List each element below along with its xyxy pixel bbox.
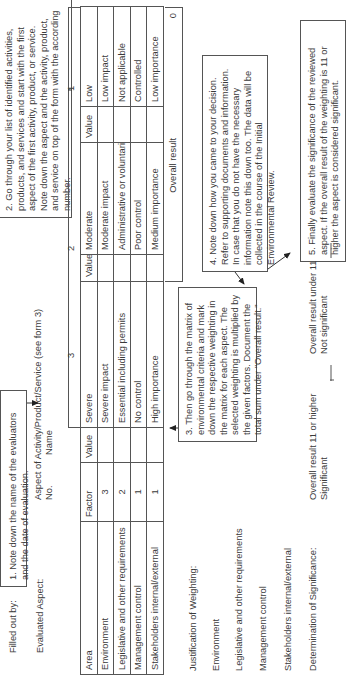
weighting-band xyxy=(68,7,80,428)
filled-out-by-label: Filled out by: xyxy=(8,600,18,653)
value-3-input[interactable] xyxy=(97,428,114,463)
col-value-2: Value xyxy=(81,255,98,282)
callout-step-1: 1. Note down the name of the evaluators … xyxy=(0,390,27,587)
col-factor: Factor xyxy=(81,463,98,522)
col-moderate: Moderate xyxy=(81,143,98,255)
callout-step-5-text: 5. Finally evaluate the significance of … xyxy=(307,27,342,255)
value-3-input[interactable] xyxy=(147,428,164,463)
callout-step-2: 2. Go through your list of identified ac… xyxy=(0,0,72,218)
band-label-1: 1 xyxy=(66,86,76,91)
callout-step-3: 3. Then go through the matrix of environ… xyxy=(178,287,257,442)
callout-step-4: 4. Note down how you came to your decisi… xyxy=(202,55,268,272)
low-cell: Controlled xyxy=(130,7,147,107)
justification-management: Management control xyxy=(258,586,268,671)
area-cell: Stakeholders internal/external xyxy=(147,522,164,675)
col-severe: Severe xyxy=(81,282,98,428)
callout-step-1-text: 1. Note down the name of the evaluators … xyxy=(8,397,31,580)
weighting-matrix: Area Factor Value Severe Value Moderate … xyxy=(80,6,164,675)
matrix-row-stakeholders: Stakeholders internal/external 1 High im… xyxy=(147,7,164,675)
value-2-input[interactable] xyxy=(97,255,114,282)
factor-cell: 2 xyxy=(114,463,131,522)
callout-step-4-text: 4. Note down how you came to your decisi… xyxy=(208,62,277,265)
value-3-input[interactable] xyxy=(114,428,131,463)
value-2-input[interactable] xyxy=(114,255,131,282)
col-low: Low xyxy=(81,7,98,107)
significance-label: Determination of Significance: xyxy=(308,547,318,671)
aspect-description: Aspect of Activity/Product/Service (see … xyxy=(33,309,43,500)
area-cell: Legislative and other requirements xyxy=(114,522,131,675)
factor-cell: 1 xyxy=(130,463,147,522)
callout-step-2-text: 2. Go through your list of identified ac… xyxy=(4,6,73,211)
low-cell: Low importance xyxy=(147,7,164,107)
overall-result-row: Overall result 0 xyxy=(165,7,183,282)
severe-cell: High importance xyxy=(147,282,164,428)
not-significant-label: Not significant xyxy=(319,296,329,354)
value-1-input[interactable] xyxy=(130,107,147,143)
evaluated-aspect-label: Evaluated Aspect: xyxy=(35,579,45,653)
value-1-input[interactable] xyxy=(97,107,114,143)
value-1-input[interactable] xyxy=(147,107,164,143)
severe-cell: Essential including permits xyxy=(114,282,131,428)
matrix-row-environment: Environment 3 Severe impact Moderate imp… xyxy=(97,7,114,675)
col-area: Area xyxy=(81,522,98,675)
col-value-1: Value xyxy=(81,107,98,143)
not-significant-criterion: Overall result under 11 xyxy=(308,261,318,354)
band-label-3: 3 xyxy=(66,353,76,358)
significant-criterion: Overall result 11 or higher xyxy=(308,394,318,500)
overall-result-value: 0 xyxy=(168,13,178,18)
col-value-3: Value xyxy=(81,428,98,463)
justification-title: Justification of Weighting: xyxy=(188,566,198,671)
aspect-name-label: Name xyxy=(44,430,54,455)
matrix-header-row: Area Factor Value Severe Value Moderate … xyxy=(81,7,98,675)
value-2-input[interactable] xyxy=(130,255,147,282)
value-3-input[interactable] xyxy=(130,428,147,463)
evaluation-form-page: Filled out by: Date: Evaluated Aspect: A… xyxy=(0,0,359,683)
low-cell: Not applicable xyxy=(114,7,131,107)
callout-step-3-text: 3. Then go through the matrix of environ… xyxy=(184,294,265,435)
value-2-input[interactable] xyxy=(147,255,164,282)
callout-step-5: 5. Finally evaluate the significance of … xyxy=(300,20,346,262)
factor-cell: 3 xyxy=(97,463,114,522)
area-cell: Environment xyxy=(97,522,114,675)
moderate-cell: Poor control xyxy=(130,143,147,255)
moderate-cell: Medium importance xyxy=(147,143,164,255)
moderate-cell: Administrative or voluntarily xyxy=(114,143,131,255)
justification-stakeholders: Stakeholders internal/external xyxy=(283,548,293,671)
area-cell: Management control xyxy=(130,522,147,675)
aspect-number-label: No. xyxy=(44,486,54,500)
justification-environment: Environment xyxy=(211,619,221,671)
overall-result-label: Overall result xyxy=(168,138,178,193)
matrix-row-legislative: Legislative and other requirements 2 Ess… xyxy=(114,7,131,675)
low-cell: Low impact xyxy=(97,7,114,107)
severe-cell: No control xyxy=(130,282,147,428)
severe-cell: Severe impact xyxy=(97,282,114,428)
factor-cell: 1 xyxy=(147,463,164,522)
value-1-input[interactable] xyxy=(114,107,131,143)
matrix-row-management: Management control 1 No control Poor con… xyxy=(130,7,147,675)
significant-label: Significant xyxy=(319,457,329,500)
justification-legislative: Legislative and other requirements xyxy=(234,528,244,671)
band-label-2: 2 xyxy=(66,246,76,251)
moderate-cell: Moderate impact xyxy=(97,143,114,255)
